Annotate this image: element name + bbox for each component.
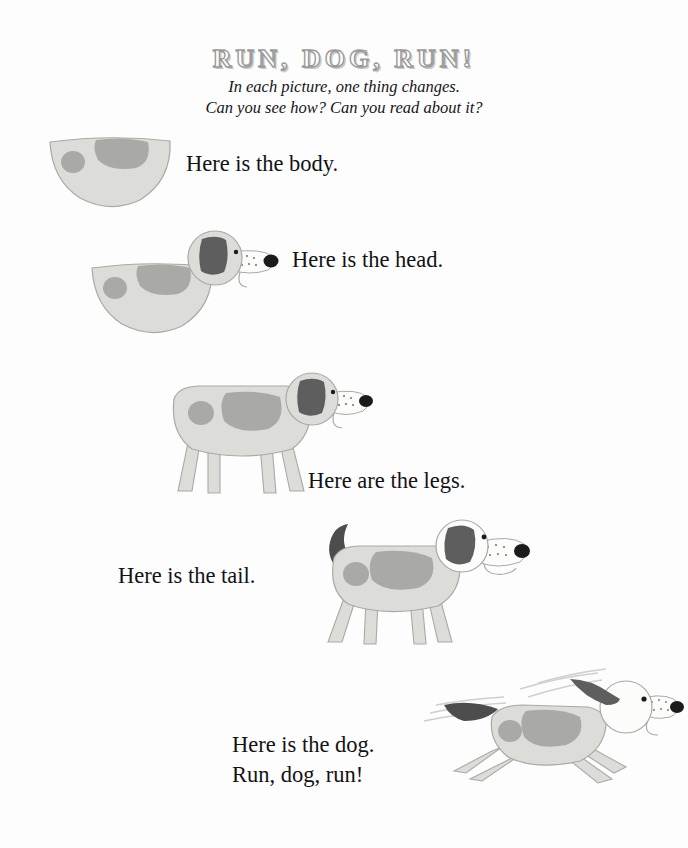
caption-tail: Here is the tail. [118, 562, 255, 590]
head-shape [600, 681, 652, 733]
body-spot-small [103, 277, 127, 299]
dog-body-head [90, 230, 290, 335]
ear-patch [297, 379, 325, 416]
subtitle-line-1: In each picture, one thing changes. [0, 76, 688, 97]
book-page: RUN, DOG, RUN! In each picture, one thin… [0, 0, 688, 848]
page-subtitle: In each picture, one thing changes. Can … [0, 76, 688, 118]
dog-running [420, 655, 685, 790]
caption-head: Here is the head. [292, 246, 443, 274]
body-spot-large [370, 551, 434, 590]
eye [641, 696, 646, 701]
eye [331, 390, 335, 394]
body-spot-large [521, 710, 581, 747]
dog-body-only [48, 136, 178, 212]
body-spot-large [221, 392, 281, 431]
eye [482, 535, 487, 540]
caption-dog: Here is the dog. Run, dog, run! [232, 730, 374, 790]
nose [359, 395, 373, 407]
tongue [239, 272, 247, 287]
caption-body: Here is the body. [186, 150, 338, 178]
page-title: RUN, DOG, RUN! [0, 44, 688, 74]
subtitle-line-2: Can you see how? Can you read about it? [0, 97, 688, 118]
ear-patch [199, 237, 227, 275]
ear-patch [444, 525, 475, 564]
body-spot-small [343, 562, 369, 586]
eye [234, 250, 238, 254]
body-spot-small [498, 720, 522, 742]
dog-body-head-legs-tail [310, 520, 535, 650]
caption-legs: Here are the legs. [308, 467, 465, 495]
tail [444, 703, 498, 721]
nose [514, 544, 530, 558]
body-spot-small [188, 401, 214, 425]
caption-dog-line-2: Run, dog, run! [232, 760, 374, 790]
nose [264, 255, 279, 268]
tongue [333, 413, 342, 428]
nose [670, 701, 684, 713]
caption-dog-line-1: Here is the dog. [232, 730, 374, 760]
body-spot-small [61, 151, 85, 173]
